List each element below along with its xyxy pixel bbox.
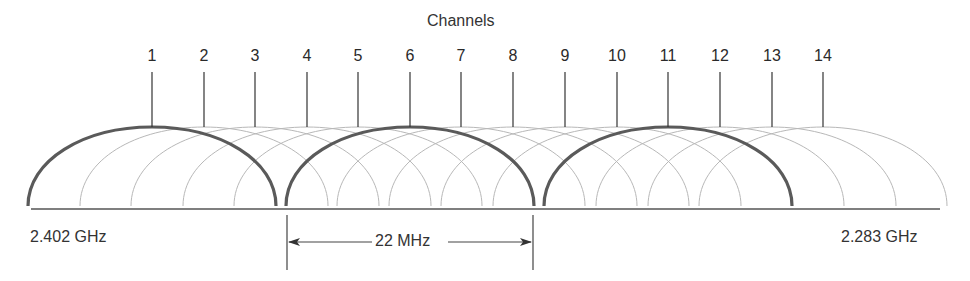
channel-number-label: 12	[711, 47, 729, 65]
wifi-channel-diagram	[0, 0, 970, 281]
channel-number-label: 3	[251, 47, 260, 65]
diagram-title: Channels	[427, 12, 495, 30]
channel-number-label: 13	[763, 47, 781, 65]
channel-overlap-arcs	[80, 127, 947, 206]
channel-number-label: 14	[814, 47, 832, 65]
channel-number-label: 5	[354, 47, 363, 65]
channel-number-label: 9	[561, 47, 570, 65]
channel-center-ticks	[152, 72, 823, 127]
non-overlapping-channel-arcs	[28, 127, 792, 206]
channel-number-label: 7	[457, 47, 466, 65]
channel-number-label: 1	[148, 47, 157, 65]
channel-number-label: 8	[509, 47, 518, 65]
end-frequency-label: 2.283 GHz	[841, 228, 917, 246]
channel-number-label: 11	[660, 47, 677, 65]
channel-number-label: 6	[406, 47, 415, 65]
channel-number-label: 10	[608, 47, 626, 65]
channel-number-label: 2	[200, 47, 209, 65]
start-frequency-label: 2.402 GHz	[30, 228, 106, 246]
bandwidth-label: 22 MHz	[375, 232, 430, 250]
channel-number-label: 4	[303, 47, 312, 65]
